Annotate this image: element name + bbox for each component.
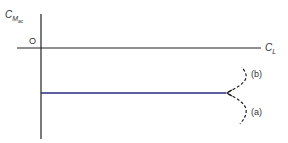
origin-label: O [29,36,36,46]
arrowhead-icon [227,90,232,96]
moment-coefficient-diagram: CMac O CL (b) (a) [0,0,288,143]
branch-b-curve [228,67,246,92]
branch-a-curve [228,94,246,124]
y-axis-label: CMac [5,9,24,24]
branch-b-label: (b) [251,69,262,79]
branch-a-label: (a) [251,107,262,117]
x-axis-label: CL [265,42,276,55]
